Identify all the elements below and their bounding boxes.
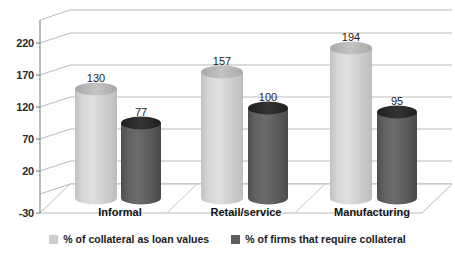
chart-legend: % of collateral as loan values % of firm… <box>0 233 455 245</box>
bar-manufacturing-collateral[interactable] <box>330 42 372 205</box>
y-tick-label--30: -30 <box>0 207 34 219</box>
category-label-informal: Informal <box>60 206 180 218</box>
chart-plot-area <box>0 0 455 258</box>
y-tick-label-120: 120 <box>0 101 34 113</box>
y-tick-label-220: 220 <box>0 37 34 49</box>
category-label-retail-service: Retail/service <box>186 206 306 218</box>
bar-manufacturing-firms[interactable] <box>377 106 417 205</box>
value-label-informal-firms: 77 <box>121 106 161 118</box>
bar-retail-firms[interactable] <box>248 102 288 205</box>
bar-retail-collateral[interactable] <box>201 66 243 205</box>
chart-container: 220 170 120 70 20 -30 130 77 157 100 194… <box>0 0 455 258</box>
y-tick-label-20: 20 <box>0 165 34 177</box>
legend-label-firms-that-require-collateral: % of firms that require collateral <box>245 233 405 245</box>
bar-informal-collateral[interactable] <box>75 83 117 205</box>
legend-swatch-light-icon <box>49 235 58 244</box>
legend-swatch-dark-icon <box>231 235 240 244</box>
y-tick-label-70: 70 <box>0 133 34 145</box>
category-label-manufacturing: Manufacturing <box>312 206 432 218</box>
value-label-retail-collateral: 157 <box>202 55 242 67</box>
value-label-manufacturing-collateral: 194 <box>331 31 371 43</box>
bar-informal-firms[interactable] <box>121 117 161 205</box>
y-axis <box>36 20 40 213</box>
legend-label-collateral-as-loan-values: % of collateral as loan values <box>63 233 209 245</box>
value-label-manufacturing-firms: 95 <box>377 95 417 107</box>
value-label-informal-collateral: 130 <box>76 72 116 84</box>
legend-entry-firms-that-require-collateral[interactable]: % of firms that require collateral <box>231 233 405 245</box>
legend-entry-collateral-as-loan-values[interactable]: % of collateral as loan values <box>49 233 209 245</box>
value-label-retail-firms: 100 <box>248 91 288 103</box>
y-tick-label-170: 170 <box>0 69 34 81</box>
